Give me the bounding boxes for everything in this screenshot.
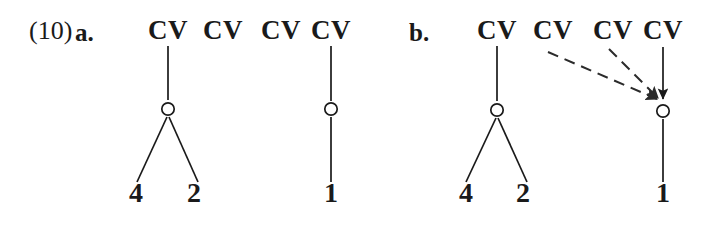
root-node-a-2 (325, 103, 337, 115)
cv-slot-b-1: CV (467, 17, 527, 44)
melody-unit-a-1: 4 (121, 179, 151, 207)
cv-slot-b-2: CV (523, 17, 583, 44)
example-number: (10) (29, 18, 72, 44)
part-label-a: a. (75, 20, 94, 45)
cv-slot-a-4: CV (301, 17, 361, 44)
spread-arrow-b-cv3-root2 (609, 49, 658, 98)
assoc-line-a-root1-mel4 (137, 117, 167, 182)
cv-slot-a-1: CV (138, 17, 198, 44)
assoc-line-a-root1-mel2 (169, 117, 198, 182)
root-node-b-1 (491, 104, 503, 116)
cv-slot-a-2: CV (193, 17, 253, 44)
root-node-b-2 (657, 105, 669, 117)
assoc-line-b-root1-mel2 (498, 118, 527, 182)
melody-unit-b-2: 2 (508, 179, 538, 207)
cv-slot-b-4: CV (633, 17, 693, 44)
melody-unit-a-3: 1 (316, 179, 346, 207)
spread-arrow-b-cv2-root2 (548, 52, 657, 99)
melody-unit-b-1: 4 (451, 179, 481, 207)
root-node-a-1 (162, 103, 174, 115)
melody-unit-a-2: 2 (179, 179, 209, 207)
part-label-b: b. (409, 20, 429, 45)
assoc-line-b-root1-mel4 (466, 118, 496, 182)
melody-unit-b-3: 1 (648, 179, 678, 207)
figure-root: (10) a. CV CV CV CV 4 2 1 b. CV CV CV CV… (0, 0, 713, 228)
